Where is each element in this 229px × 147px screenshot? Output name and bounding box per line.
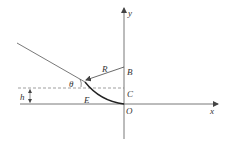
height-label: h xyxy=(20,92,25,102)
diagram-canvas: y x B C O E R θ h xyxy=(0,0,229,147)
curved-track xyxy=(85,82,124,104)
origin-label: O xyxy=(126,106,133,116)
y-axis-label: y xyxy=(127,8,132,18)
point-e-label: E xyxy=(83,95,90,105)
point-c-label: C xyxy=(127,89,134,99)
angle-label: θ xyxy=(69,79,74,89)
radius-label: R xyxy=(101,64,108,74)
incline-line xyxy=(17,43,85,82)
x-axis-label: x xyxy=(209,106,214,116)
point-b-label: B xyxy=(127,67,133,77)
